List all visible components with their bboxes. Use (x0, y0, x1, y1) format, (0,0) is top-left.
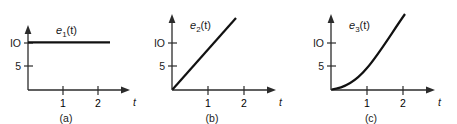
y-tick-label-5: 5 (318, 60, 324, 72)
figure-row: IO 5 1 2 t e1(t) (a) IO 5 1 (0, 0, 457, 124)
x-tick-label-2: 2 (400, 97, 406, 109)
y-tick-label-10: IO (154, 37, 165, 49)
y-tick-label-10: IO (313, 37, 324, 49)
x-tick-label-2: 2 (95, 97, 101, 109)
x-axis-arrow-icon (426, 87, 435, 94)
chart-panel-b: IO 5 1 2 t e2(t) (b) (152, 0, 304, 124)
chart-panel-c: IO 5 1 2 t e3(t) (c) (305, 0, 457, 124)
y-tick-label-5: 5 (159, 60, 165, 72)
chart-b-svg: IO 5 1 2 t e2(t) (b) (152, 0, 304, 124)
x-axis-label: t (438, 96, 442, 108)
x-tick-label-1: 1 (364, 97, 370, 109)
y-axis-arrow-icon (169, 14, 176, 23)
panel-caption-c: (c) (365, 112, 377, 124)
chart-a-svg: IO 5 1 2 t e1(t) (a) (0, 0, 152, 124)
curve-label-e3: e3(t) (349, 19, 370, 34)
y-axis-arrow-icon (328, 14, 335, 23)
y-axis-arrow-icon (25, 25, 32, 34)
panel-caption-a: (a) (60, 112, 73, 124)
x-axis-arrow-icon (121, 87, 130, 94)
y-tick-label-10: IO (10, 37, 21, 49)
curve-label-e1: e1(t) (56, 24, 77, 39)
chart-c-svg: IO 5 1 2 t e3(t) (c) (305, 0, 457, 124)
x-axis-label: t (279, 96, 283, 108)
x-tick-label-1: 1 (205, 97, 211, 109)
curve-label-argument: (t) (360, 19, 370, 31)
curve-label-argument: (t) (67, 24, 77, 36)
x-tick-label-1: 1 (60, 97, 66, 109)
curve-label-e2: e2(t) (190, 19, 211, 34)
x-tick-label-2: 2 (241, 97, 247, 109)
y-tick-label-5: 5 (15, 60, 21, 72)
curve-label-argument: (t) (201, 19, 211, 31)
x-axis-label: t (133, 96, 137, 108)
panel-caption-b: (b) (206, 112, 219, 124)
chart-panel-a: IO 5 1 2 t e1(t) (a) (0, 0, 152, 124)
x-axis-arrow-icon (267, 87, 276, 94)
